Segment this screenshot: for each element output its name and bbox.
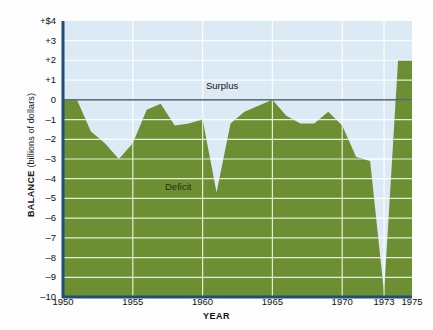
x-tick-label: 1970 <box>332 296 353 307</box>
annotation-surplus: Surplus <box>206 80 238 91</box>
annotation-deficit: Deficit <box>165 181 191 192</box>
chart-figure: BALANCE (billions of dollars) +$4+3+2+10… <box>0 0 433 330</box>
x-tick-label: 1955 <box>122 296 143 307</box>
chart-plot-area <box>0 0 433 330</box>
x-axis-ticks: 1950195519601965197019731975 <box>0 296 433 312</box>
x-tick-label: 1950 <box>52 296 73 307</box>
x-tick-label: 1975 <box>401 296 422 307</box>
x-axis-title: YEAR <box>0 311 433 321</box>
x-tick-label: 1965 <box>262 296 283 307</box>
x-tick-label: 1973 <box>374 296 395 307</box>
x-tick-label: 1960 <box>192 296 213 307</box>
